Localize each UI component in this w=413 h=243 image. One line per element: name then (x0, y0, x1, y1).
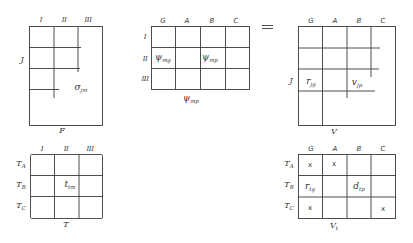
matrix-v-col-label: B (357, 18, 362, 25)
matrix-psi-col-label: C (234, 18, 239, 25)
matrix-t-row-label: TB (16, 181, 25, 191)
matrix-vt-col-label: G (308, 146, 313, 153)
matrix-vt-row-label: TC (284, 202, 294, 212)
matrix-f-cell-label: σjm (74, 83, 87, 94)
matrix-v-col-label: G (308, 18, 313, 25)
matrix-t-row-label: TA (16, 160, 25, 170)
matrix-vt-cell-label: dtp (353, 182, 365, 193)
matrix-v-col-label: A (333, 18, 338, 25)
matrix-f-title: F (59, 127, 65, 135)
matrix-vt-row-label: TA (284, 160, 293, 170)
matrix-t-cell-label: ttm (64, 180, 75, 191)
matrix-vt-x-mark: x (308, 162, 312, 169)
matrix-psi-row-label: II (143, 56, 148, 63)
matrix-psi-row-label: I (144, 34, 146, 41)
matrix-f-row-label: J (20, 56, 23, 64)
matrix-vt-cell-label: rtg (305, 182, 315, 193)
matrix-psi-cell-label: ψmg (155, 53, 171, 64)
matrix-psi-title: ψmp (183, 94, 199, 105)
matrix-vt-col-label: A (333, 146, 338, 153)
matrix-v-cell-label: rjg (306, 77, 316, 88)
matrix-t-col-label: III (87, 146, 94, 153)
matrix-vt-row-label: TB (284, 181, 293, 191)
matrix-v-row-label: J (289, 77, 292, 85)
matrix-t-col-label: II (64, 146, 69, 153)
matrix-t-col-label: I (41, 146, 43, 153)
matrix-psi-cell-label: ψmp (202, 53, 218, 64)
matrix-vt-x-mark: x (308, 205, 312, 212)
matrix-v-col-label: C (381, 18, 386, 25)
matrix-vt-title: Vt (330, 222, 338, 232)
matrix-vt-x-mark: x (332, 161, 336, 168)
matrix-vt-col-label: C (381, 146, 386, 153)
matrix-psi-col-label: A (185, 18, 190, 25)
matrix-f-col-label: II (62, 17, 67, 24)
diagram-canvas (0, 0, 413, 243)
matrix-t-title: T (63, 221, 68, 229)
matrix-vt-col-label: B (357, 146, 362, 153)
matrix-psi-col-label: B (210, 18, 215, 25)
matrix-f-col-label: III (85, 17, 92, 24)
matrix-f-col-label: I (40, 17, 42, 24)
matrix-psi-col-label: G (160, 18, 165, 25)
matrix-vt-x-mark: x (381, 206, 385, 213)
matrix-psi-row-label: III (142, 76, 149, 83)
matrix-f-grid (30, 27, 103, 126)
matrix-v-title: V (331, 128, 337, 136)
matrix-t-row-label: TC (16, 202, 26, 212)
matrix-v-cell-label: vjp (352, 78, 362, 89)
